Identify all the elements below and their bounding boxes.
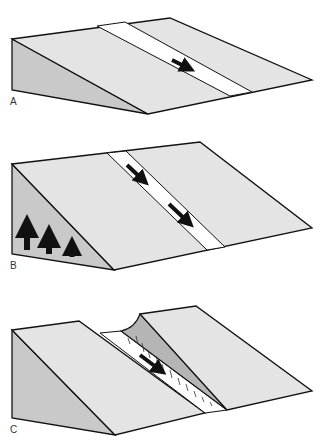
panel-label-c: C bbox=[10, 424, 17, 435]
panel-label-b: B bbox=[10, 260, 17, 271]
panel-c-diagram bbox=[12, 306, 312, 435]
figure-canvas bbox=[0, 0, 322, 440]
panel-b-diagram bbox=[12, 142, 312, 270]
panel-a-diagram bbox=[12, 18, 312, 114]
panel-label-a: A bbox=[10, 96, 17, 107]
